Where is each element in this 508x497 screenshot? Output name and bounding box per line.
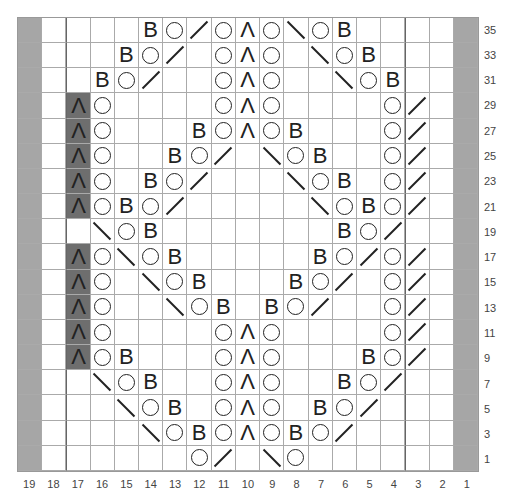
- chart-cell: [357, 119, 381, 144]
- chart-cell: [212, 194, 236, 219]
- chart-cell: [187, 93, 211, 118]
- chart-cell: [260, 320, 284, 345]
- chart-cell: [309, 219, 333, 244]
- yarn-over-icon: [287, 449, 304, 466]
- twisted-stitch-icon: B: [361, 195, 376, 217]
- chart-cell: Λ: [66, 119, 90, 144]
- chart-cell: [405, 68, 429, 93]
- chart-cell: [430, 169, 454, 194]
- chart-cell: [163, 93, 187, 118]
- chart-cell: B: [163, 244, 187, 269]
- yarn-over-icon: [384, 147, 401, 164]
- chart-cell: [381, 144, 405, 169]
- column-label: 5: [357, 478, 381, 490]
- yarn-over-icon: [263, 324, 280, 341]
- chart-cell: [163, 345, 187, 370]
- chart-cell: B: [333, 219, 357, 244]
- chart-cell: [381, 295, 405, 320]
- chart-cell: [66, 43, 90, 68]
- chart-cell: [18, 270, 42, 295]
- chart-cell: [333, 194, 357, 219]
- row-label: 1: [484, 447, 508, 472]
- chart-cell: [187, 43, 211, 68]
- chart-cell: [333, 446, 357, 471]
- double-decrease-icon: Λ: [71, 95, 86, 117]
- chart-cell: [42, 395, 66, 420]
- chart-cell: Λ: [66, 320, 90, 345]
- chart-cell: B: [260, 295, 284, 320]
- chart-cell: [430, 18, 454, 43]
- chart-cell: [66, 219, 90, 244]
- yarn-over-icon: [142, 248, 159, 265]
- chart-cell: Λ: [236, 93, 260, 118]
- double-decrease-icon: Λ: [71, 321, 86, 343]
- chart-cell: Λ: [66, 144, 90, 169]
- yarn-over-icon: [166, 173, 183, 190]
- yarn-over-icon: [94, 324, 111, 341]
- chart-cell: [284, 345, 308, 370]
- chart-cell: [357, 395, 381, 420]
- yarn-over-icon: [94, 349, 111, 366]
- yarn-over-icon: [287, 147, 304, 164]
- chart-cell: [91, 295, 115, 320]
- chart-cell: [139, 194, 163, 219]
- right-decrease-icon: [335, 273, 353, 291]
- chart-cell: [430, 370, 454, 395]
- chart-cell: [42, 244, 66, 269]
- chart-cell: [187, 169, 211, 194]
- yarn-over-icon: [142, 399, 159, 416]
- right-decrease-icon: [408, 323, 426, 341]
- yarn-over-icon: [118, 374, 135, 391]
- row-label: 31: [484, 68, 508, 93]
- chart-cell: [66, 68, 90, 93]
- chart-cell: [18, 144, 42, 169]
- chart-cell: [260, 421, 284, 446]
- chart-cell: [357, 93, 381, 118]
- chart-cell: [454, 446, 478, 471]
- chart-cell: B: [187, 270, 211, 295]
- chart-cell: [333, 295, 357, 320]
- chart-cell: B: [212, 295, 236, 320]
- chart-cell: [430, 446, 454, 471]
- chart-cell: [430, 345, 454, 370]
- yarn-over-icon: [215, 72, 232, 89]
- chart-cell: [236, 144, 260, 169]
- chart-cell: [212, 169, 236, 194]
- chart-cell: [91, 169, 115, 194]
- chart-cell: [284, 144, 308, 169]
- chart-cell: [309, 295, 333, 320]
- chart-cell: [454, 144, 478, 169]
- chart-cell: [430, 219, 454, 244]
- column-label: 6: [333, 478, 357, 490]
- yarn-over-icon: [360, 72, 377, 89]
- chart-cell: [284, 93, 308, 118]
- chart-cell: [187, 320, 211, 345]
- chart-cell: [430, 295, 454, 320]
- chart-cell: [212, 421, 236, 446]
- chart-cell: [405, 93, 429, 118]
- yarn-over-icon: [263, 47, 280, 64]
- chart-cell: [18, 43, 42, 68]
- yarn-over-icon: [384, 97, 401, 114]
- chart-cell: [66, 446, 90, 471]
- yarn-over-icon: [215, 374, 232, 391]
- yarn-over-icon: [384, 273, 401, 290]
- yarn-over-icon: [263, 122, 280, 139]
- right-decrease-icon: [141, 71, 159, 89]
- yarn-over-icon: [94, 147, 111, 164]
- chart-cell: [309, 93, 333, 118]
- chart-cell: [42, 43, 66, 68]
- chart-cell: [91, 345, 115, 370]
- chart-cell: [42, 68, 66, 93]
- chart-cell: B: [309, 144, 333, 169]
- column-label: 14: [139, 478, 163, 490]
- chart-cell: [187, 219, 211, 244]
- chart-cell: [187, 244, 211, 269]
- yarn-over-icon: [215, 424, 232, 441]
- chart-cell: [454, 119, 478, 144]
- yarn-over-icon: [336, 47, 353, 64]
- chart-cell: [309, 421, 333, 446]
- twisted-stitch-icon: B: [337, 220, 352, 242]
- column-label: 16: [90, 478, 114, 490]
- double-decrease-icon: Λ: [240, 422, 255, 444]
